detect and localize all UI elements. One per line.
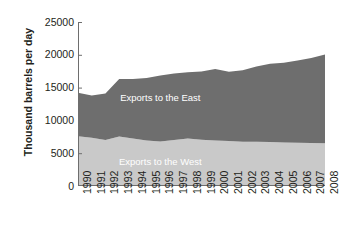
x-tick-label: 2006 — [302, 171, 313, 194]
x-axis-tick-labels: 1990199119921993199419951996199719981999… — [0, 0, 348, 238]
x-tick-label: 2003 — [260, 171, 271, 194]
x-tick-label: 2007 — [315, 171, 326, 194]
x-tick-label: 1990 — [82, 171, 93, 194]
x-tick-label: 2004 — [274, 171, 285, 194]
x-tick-label: 1998 — [192, 171, 203, 194]
x-tick-label: 1994 — [137, 171, 148, 194]
x-tick-label: 2002 — [247, 171, 258, 194]
x-tick-label: 1991 — [96, 171, 107, 194]
x-tick-label: 2005 — [288, 171, 299, 194]
x-tick-label: 1997 — [178, 171, 189, 194]
x-tick-label: 1992 — [109, 171, 120, 194]
x-tick-label: 2008 — [329, 171, 340, 194]
x-tick-label: 2000 — [219, 171, 230, 194]
x-tick-label: 1999 — [206, 171, 217, 194]
x-tick-label: 2001 — [233, 171, 244, 194]
x-tick-label: 1995 — [151, 171, 162, 194]
x-tick-label: 1996 — [164, 171, 175, 194]
chart-figure: Thousand barrels per day 050001000015000… — [0, 0, 348, 238]
x-tick-label: 1993 — [123, 171, 134, 194]
